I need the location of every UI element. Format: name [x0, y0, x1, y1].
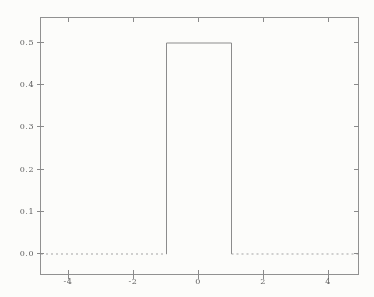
y-tick-left: [37, 42, 44, 43]
y-tick-label: 0.5: [8, 38, 34, 47]
y-tick-right: [354, 42, 359, 43]
y-tick-left: [37, 84, 44, 85]
x-tick-label: 2: [253, 277, 273, 286]
y-tick-right: [354, 126, 359, 127]
pulse-series: [41, 18, 358, 274]
y-tick-label: 0.0: [8, 249, 34, 258]
y-tick-right: [354, 169, 359, 170]
y-tick-right: [354, 253, 359, 254]
x-tick-label: 4: [318, 277, 338, 286]
y-tick-left: [37, 253, 44, 254]
y-tick-left: [37, 169, 44, 170]
x-tick-label: -4: [58, 277, 78, 286]
x-tick-label: -2: [123, 277, 143, 286]
figure: -4-20240.00.10.20.30.40.5: [0, 0, 374, 297]
plot-frame: [40, 17, 359, 275]
y-tick-label: 0.3: [8, 122, 34, 131]
x-tick-top: [68, 18, 69, 22]
x-tick-top: [263, 18, 264, 22]
y-tick-label: 0.2: [8, 165, 34, 174]
y-tick-right: [354, 84, 359, 85]
x-tick-top: [328, 18, 329, 22]
x-tick-label: 0: [188, 277, 208, 286]
y-tick-label: 0.4: [8, 80, 34, 89]
y-tick-left: [37, 126, 44, 127]
y-tick-right: [354, 211, 359, 212]
x-tick-top: [198, 18, 199, 22]
y-tick-left: [37, 211, 44, 212]
x-tick-top: [133, 18, 134, 22]
y-tick-label: 0.1: [8, 207, 34, 216]
